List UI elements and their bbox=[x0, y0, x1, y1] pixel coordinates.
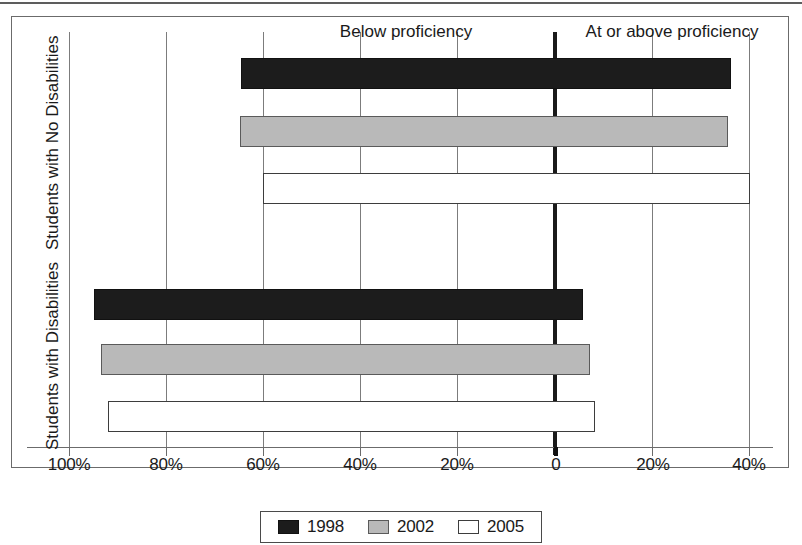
legend-item-1998[interactable]: 1998 bbox=[278, 517, 344, 537]
page-top-rule bbox=[0, 2, 802, 4]
legend-item-2002[interactable]: 2002 bbox=[368, 517, 434, 537]
chart-frame bbox=[11, 16, 789, 468]
legend-label-2005: 2005 bbox=[487, 517, 524, 537]
legend-swatch-1998 bbox=[278, 520, 299, 534]
legend-swatch-2005 bbox=[458, 520, 479, 534]
legend: 1998 2002 2005 bbox=[260, 511, 542, 543]
legend-swatch-2002 bbox=[368, 520, 389, 534]
legend-item-2005[interactable]: 2005 bbox=[458, 517, 524, 537]
legend-label-1998: 1998 bbox=[307, 517, 344, 537]
legend-label-2002: 2002 bbox=[397, 517, 434, 537]
figure: 100% 80% 60% 40% 20% 0 20% 40% Below pro… bbox=[0, 0, 802, 545]
